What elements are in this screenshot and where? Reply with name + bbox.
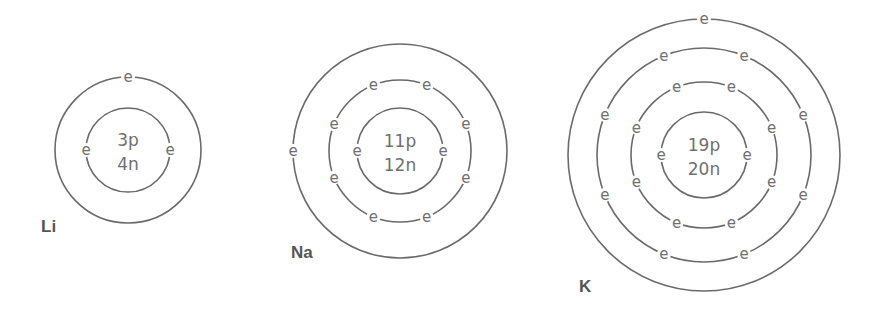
- electron-label: e: [438, 142, 447, 160]
- electron-label: e: [330, 115, 339, 133]
- electron-shell-2: eeeeeeee: [629, 78, 778, 231]
- electron-label: e: [123, 68, 132, 86]
- electron-label: e: [422, 208, 431, 226]
- electron-label: e: [659, 245, 668, 263]
- atom-na: eeeeeeeeeee11p12nNa: [286, 44, 507, 262]
- electron-label: e: [461, 169, 470, 187]
- electron-label: e: [81, 141, 90, 159]
- electron-label: e: [632, 173, 641, 191]
- electron-label: e: [461, 115, 470, 133]
- electron-label: e: [369, 76, 378, 94]
- protons-count: 19p: [688, 135, 720, 155]
- electron-shell-3: e: [286, 44, 507, 258]
- electron-shell-1: ee: [350, 108, 450, 194]
- electron-shell-3: eeeeeeee: [597, 47, 811, 263]
- electron-label: e: [699, 10, 708, 28]
- protons-count: 3p: [117, 130, 139, 150]
- electron-label: e: [799, 186, 808, 204]
- bohr-diagram: eee3p4nLieeeeeeeeeee11p12nNaeeeeeeeeeeee…: [0, 0, 874, 310]
- neutrons-count: 12n: [384, 155, 416, 175]
- electron-label: e: [165, 141, 174, 159]
- electron-label: e: [288, 142, 297, 160]
- electron-label: e: [659, 47, 668, 65]
- electron-label: e: [742, 146, 751, 164]
- electron-label: e: [767, 173, 776, 191]
- electron-label: e: [352, 142, 361, 160]
- element-symbol-label: Na: [291, 243, 313, 262]
- electron-label: e: [422, 76, 431, 94]
- electron-label: e: [739, 245, 748, 263]
- electron-label: e: [739, 47, 748, 65]
- electron-label: e: [799, 106, 808, 124]
- electron-label: e: [672, 78, 681, 96]
- electron-label: e: [369, 208, 378, 226]
- electron-label: e: [600, 106, 609, 124]
- electron-label: e: [727, 214, 736, 232]
- electron-label: e: [600, 186, 609, 204]
- electron-label: e: [656, 146, 665, 164]
- electron-shell-1: ee: [654, 112, 754, 198]
- electron-label: e: [767, 119, 776, 137]
- element-symbol-label: Li: [41, 217, 56, 236]
- protons-count: 11p: [384, 131, 416, 151]
- electron-shell-1: ee: [79, 108, 177, 192]
- electron-label: e: [727, 78, 736, 96]
- electron-label: e: [330, 169, 339, 187]
- atom-k: eeeeeeeeeeeeeeeeeee19p20nK: [568, 10, 840, 296]
- atom-li: eee3p4nLi: [41, 68, 201, 236]
- electron-label: e: [632, 119, 641, 137]
- neutrons-count: 4n: [117, 154, 139, 174]
- electron-label: e: [672, 214, 681, 232]
- electron-shell-2: eeeeeeee: [327, 76, 473, 226]
- element-symbol-label: K: [579, 277, 592, 296]
- neutrons-count: 20n: [688, 159, 720, 179]
